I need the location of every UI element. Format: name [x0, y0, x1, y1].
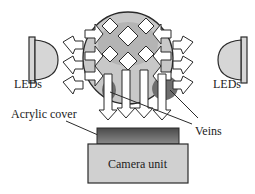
leds-left-label: LEDs — [14, 78, 42, 90]
acrylic-cover — [97, 128, 179, 144]
camera-unit-label: Camera unit — [108, 158, 167, 170]
acrylic-cover-label: Acrylic cover — [11, 108, 77, 120]
light-arrows — [63, 18, 193, 120]
veins-label: Veins — [195, 125, 222, 137]
leds-right-label: LEDs — [213, 78, 241, 90]
